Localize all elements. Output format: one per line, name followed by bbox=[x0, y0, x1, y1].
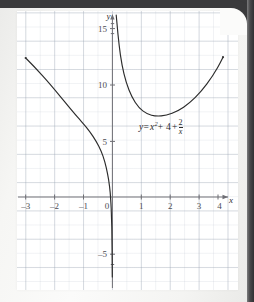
fraction-numerator: 2 bbox=[179, 119, 183, 127]
equation-constant-term: + 4 bbox=[158, 122, 171, 132]
page-right-edge bbox=[247, 0, 254, 302]
curve-endpoint-right bbox=[222, 56, 224, 58]
y-axis-label: y bbox=[106, 11, 111, 21]
equation-label: y= x2+ 4 +2x bbox=[139, 119, 183, 136]
page-top-edge bbox=[0, 0, 254, 8]
y-tick-label-10: 10 bbox=[98, 80, 108, 90]
x-tick-label--3: –3 bbox=[20, 201, 31, 211]
fraction-denominator: x bbox=[179, 127, 183, 136]
curve-left-branch bbox=[26, 58, 113, 277]
x-tick-label-0: 0 bbox=[105, 201, 110, 211]
x-axis-label: x bbox=[228, 195, 233, 205]
y-tick-label--5: –5 bbox=[97, 249, 108, 259]
curve-endpoint-left bbox=[25, 57, 27, 59]
y-tick-label-15: 15 bbox=[98, 24, 108, 34]
x-tick-label--2: –2 bbox=[49, 201, 59, 211]
equation-fraction: 2x bbox=[179, 119, 183, 136]
plot-area: –3 –2 –1 0 1 2 3 4 15 10 5 –5 x y bbox=[0, 0, 254, 302]
curve-right-branch bbox=[116, 15, 223, 116]
graph-screenshot: –3 –2 –1 0 1 2 3 4 15 10 5 –5 x y y= x2+… bbox=[0, 0, 254, 302]
x-tick-label-3: 3 bbox=[197, 201, 202, 211]
x-tick-label-1: 1 bbox=[139, 201, 144, 211]
x-axis bbox=[18, 195, 228, 199]
equation-plus-sign: + bbox=[172, 122, 178, 132]
equation-equals: = bbox=[143, 122, 149, 132]
x-tick-label--1: –1 bbox=[78, 201, 88, 211]
y-tick-label-5: 5 bbox=[103, 137, 108, 147]
x-tick-label-4: 4 bbox=[217, 201, 222, 211]
x-tick-label-2: 2 bbox=[168, 201, 173, 211]
